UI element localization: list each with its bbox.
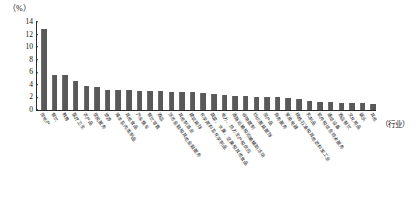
bar — [169, 92, 174, 110]
x-axis-labels: 房地产餐饮教育医疗卫生农产品居民服务旅游猪羊及肉类制品其他食品汽车整车餐饮零售酒… — [36, 112, 376, 212]
bar — [115, 90, 120, 110]
bar — [158, 91, 163, 110]
bar — [84, 86, 89, 110]
y-axis-tick-2: 4 — [29, 81, 36, 89]
y-axis-tick-1: 2 — [29, 94, 36, 102]
bar — [264, 97, 269, 110]
y-axis-tick-5: 10 — [26, 43, 37, 51]
bar — [62, 75, 67, 110]
bar — [317, 102, 322, 110]
y-axis-tick-4: 8 — [29, 56, 36, 64]
y-axis-tick-7: 14 — [26, 18, 37, 26]
x-axis-label: 旅游 — [102, 112, 112, 123]
bar — [147, 91, 152, 110]
x-axis-label: 其他 — [368, 112, 378, 123]
bar — [243, 96, 248, 110]
bar — [285, 98, 290, 110]
bar — [41, 29, 46, 110]
bar — [190, 92, 195, 110]
bar — [211, 94, 216, 110]
bar — [94, 87, 99, 110]
bar — [73, 81, 78, 110]
bar — [307, 101, 312, 110]
bar — [232, 96, 237, 110]
bar-chart: （%） 02468101214 房地产餐饮教育医疗卫生农产品居民服务旅游猪羊及肉… — [0, 0, 420, 212]
bar — [126, 90, 131, 110]
bar — [52, 75, 57, 110]
bar — [275, 97, 280, 110]
bar — [200, 93, 205, 110]
y-axis-unit-label: （%） — [8, 2, 31, 13]
bar — [222, 95, 227, 110]
x-axis-title: （行业） — [381, 118, 409, 129]
bar — [105, 90, 110, 110]
bar — [254, 97, 259, 110]
x-axis-label: 娱乐 — [357, 112, 367, 123]
bar — [296, 99, 301, 110]
bar — [137, 91, 142, 110]
y-axis-tick-6: 12 — [26, 31, 37, 39]
y-axis-tick-3: 6 — [29, 69, 36, 77]
bar — [370, 104, 375, 110]
bar — [179, 92, 184, 110]
y-axis-tick-0: 0 — [29, 106, 36, 114]
bar — [328, 102, 333, 110]
x-axis-label: 教育 — [60, 112, 70, 123]
x-axis-label: 餐饮 — [49, 112, 59, 123]
bar — [360, 103, 365, 110]
bar — [339, 103, 344, 110]
bar-series — [36, 22, 376, 110]
plot-area: 02468101214 — [36, 22, 376, 110]
x-axis-line — [36, 110, 376, 111]
bar — [349, 103, 354, 110]
